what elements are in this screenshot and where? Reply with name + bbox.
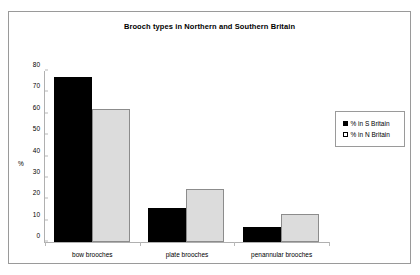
chart-frame: Brooch types in Northern and Southern Br… (8, 11, 411, 264)
bar-group: penannular brooches (234, 71, 329, 242)
bar[interactable] (54, 77, 92, 242)
y-tick-label-8: 80 (33, 61, 45, 68)
bar[interactable] (148, 208, 186, 242)
chart-title: Brooch types in Northern and Southern Br… (9, 22, 410, 31)
x-axis-tick-mark (234, 242, 235, 246)
bar-group: bow brooches (45, 71, 140, 242)
y-tick-label-1: 10 (33, 210, 45, 217)
bar[interactable] (92, 109, 130, 242)
legend-label: % in S Britain (351, 120, 390, 127)
bar[interactable] (243, 227, 281, 242)
y-axis-label: % (18, 160, 24, 167)
bar[interactable] (281, 214, 319, 242)
bar-group: plate brooches (140, 71, 235, 242)
legend-swatch-icon (343, 132, 348, 137)
legend-item[interactable]: % in N Britain (336, 129, 404, 140)
legend-label: % in N Britain (351, 131, 390, 138)
x-axis-tick-mark (140, 242, 141, 246)
y-tick-label-2: 20 (33, 189, 45, 196)
x-axis-category-label: penannular brooches (251, 251, 312, 258)
x-axis-tick-mark (329, 242, 330, 246)
x-axis-category-label: bow brooches (72, 251, 112, 258)
chart-legend: % in S Britain% in N Britain (335, 111, 405, 147)
y-tick-label-4: 40 (33, 146, 45, 153)
y-tick-label-5: 50 (33, 125, 45, 132)
x-axis-category-label: plate brooches (166, 251, 209, 258)
plot-area: 01020304050607080 bow broochesplate broo… (44, 71, 329, 243)
bar[interactable] (186, 189, 224, 242)
legend-swatch-icon (343, 121, 348, 126)
y-tick-label-7: 70 (33, 82, 45, 89)
legend-item[interactable]: % in S Britain (336, 118, 404, 129)
y-tick-label-3: 30 (33, 167, 45, 174)
y-tick-label-0: 0 (36, 232, 45, 239)
y-tick-label-6: 60 (33, 103, 45, 110)
x-axis-tick-mark (45, 242, 46, 246)
